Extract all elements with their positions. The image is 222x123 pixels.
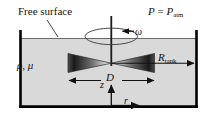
pressure-symbol-lhs: P xyxy=(148,5,155,17)
pressure-subscript: atm xyxy=(173,11,183,18)
stirred-tank-figure: Free surface P = Patm ω ρ, μ Rtank D z r xyxy=(0,0,222,123)
tank-radius-subscript: tank xyxy=(165,57,177,64)
angular-velocity-label: ω xyxy=(135,27,142,37)
pressure-equals-sign: = xyxy=(155,5,167,17)
impeller-diameter-label: D xyxy=(106,72,114,83)
tank-radius-symbol: R xyxy=(158,51,165,63)
axis-r-label: r xyxy=(124,96,128,106)
density-viscosity-label: ρ, μ xyxy=(17,60,33,71)
axis-z-label: z xyxy=(100,80,104,90)
atmospheric-pressure-label: P = Patm xyxy=(148,6,183,17)
free-surface-leader-line xyxy=(47,20,58,37)
free-surface-label: Free surface xyxy=(18,6,72,17)
tank-radius-label: Rtank xyxy=(158,52,176,63)
